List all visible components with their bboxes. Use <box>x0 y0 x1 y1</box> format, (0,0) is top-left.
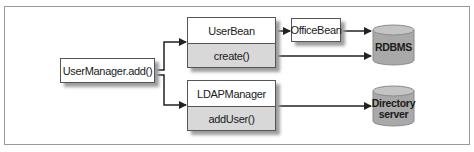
arrow-usermanager-to-userbean <box>155 42 186 70</box>
ldapmanager-node: LDAPManager addUser() <box>187 80 276 131</box>
rdbms-label: RDBMS <box>373 37 414 57</box>
arrow-usermanager-to-ldapmanager <box>155 75 186 105</box>
userbean-create-method: create() <box>188 43 275 67</box>
ldapmanager-title: LDAPManager <box>188 81 275 106</box>
usermanager-add-label: UserManager.add() <box>63 65 153 77</box>
userbean-title: UserBean <box>188 18 275 43</box>
userbean-node: UserBean create() <box>187 17 276 68</box>
officebean-label: OfficeBean <box>290 24 341 36</box>
ldapmanager-adduser-method: addUser() <box>188 106 275 130</box>
usermanager-add-node: UserManager.add() <box>60 58 155 83</box>
officebean-node: OfficeBean <box>291 18 341 42</box>
directory-server-label: Directory server <box>371 96 416 122</box>
